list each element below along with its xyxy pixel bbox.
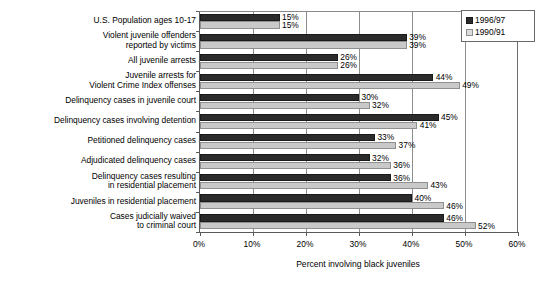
x-axis-tick-label: 30% bbox=[338, 239, 378, 249]
chart-legend: 1996/97 1990/91 bbox=[461, 10, 535, 42]
bar bbox=[200, 102, 370, 109]
x-axis-tick bbox=[465, 232, 466, 236]
category-label: Adjudicated delinquency cases bbox=[0, 156, 196, 166]
bar-value-label: 45% bbox=[441, 113, 458, 121]
x-axis-tick bbox=[412, 232, 413, 236]
gridline bbox=[465, 11, 466, 232]
bar bbox=[200, 94, 359, 101]
legend-item: 1996/97 bbox=[466, 14, 530, 26]
bar-value-label: 46% bbox=[446, 202, 463, 210]
legend-label: 1996/97 bbox=[475, 16, 505, 25]
category-axis-labels: U.S. Population ages 10-17Violent juveni… bbox=[0, 11, 196, 232]
x-axis-tick-label: 50% bbox=[444, 239, 484, 249]
bar-value-label: 40% bbox=[415, 194, 432, 202]
bar bbox=[200, 162, 391, 169]
bar bbox=[200, 154, 370, 161]
category-label: Delinquency cases in juvenile court bbox=[0, 96, 196, 106]
category-label: Violent juvenile offenders reported by v… bbox=[0, 31, 196, 50]
category-label: Delinquency cases resulting in residenti… bbox=[0, 172, 196, 191]
bar bbox=[200, 174, 391, 181]
legend-item: 1990/91 bbox=[466, 26, 530, 38]
bar-value-label: 32% bbox=[372, 101, 389, 109]
bar bbox=[200, 74, 433, 81]
bar bbox=[200, 214, 444, 221]
x-axis-tick bbox=[306, 232, 307, 236]
bar-value-label: 36% bbox=[393, 161, 410, 169]
bar-value-label: 37% bbox=[399, 141, 416, 149]
x-axis-tick-label: 40% bbox=[391, 239, 431, 249]
bar-value-label: 43% bbox=[430, 181, 447, 189]
x-axis-tick bbox=[200, 232, 201, 236]
bar-value-label: 41% bbox=[420, 121, 437, 129]
bar bbox=[200, 114, 439, 121]
category-label: Cases judicially waived to criminal cour… bbox=[0, 212, 196, 231]
x-axis-tick-label: 10% bbox=[232, 239, 272, 249]
plot-area: 15%39%26%44%30%45%33%32%36%40%46%15%39%2… bbox=[199, 11, 518, 233]
plot-right-border bbox=[517, 11, 518, 232]
bar bbox=[200, 122, 417, 129]
bar bbox=[200, 54, 338, 61]
bar-value-label: 36% bbox=[393, 174, 410, 182]
x-axis-tick bbox=[359, 232, 360, 236]
bar-chart: U.S. Population ages 10-17Violent juveni… bbox=[0, 0, 549, 287]
bar bbox=[200, 34, 407, 41]
bar bbox=[200, 14, 280, 21]
category-label: Juvenile arrests for Violent Crime Index… bbox=[0, 71, 196, 90]
category-label: Petitioned delinquency cases bbox=[0, 136, 196, 146]
y-axis-tick bbox=[196, 51, 200, 52]
bar-value-label: 49% bbox=[462, 81, 479, 89]
legend-swatch-icon bbox=[466, 29, 473, 36]
y-axis-tick bbox=[196, 212, 200, 213]
legend-swatch-icon bbox=[466, 17, 473, 24]
y-axis-tick bbox=[196, 71, 200, 72]
bar bbox=[200, 21, 280, 28]
y-axis-tick bbox=[196, 91, 200, 92]
x-axis-tick-label: 60% bbox=[497, 239, 537, 249]
category-label: Juveniles in residential placement bbox=[0, 197, 196, 207]
x-axis-tick-label: 20% bbox=[285, 239, 325, 249]
y-axis-tick bbox=[196, 152, 200, 153]
x-axis-tick bbox=[518, 232, 519, 236]
bar bbox=[200, 134, 375, 141]
bar-value-label: 52% bbox=[478, 222, 495, 230]
bar bbox=[200, 202, 444, 209]
bar-value-label: 33% bbox=[377, 133, 394, 141]
category-label: All juvenile arrests bbox=[0, 56, 196, 66]
bar-value-label: 44% bbox=[436, 73, 453, 81]
bar-value-label: 15% bbox=[282, 21, 299, 29]
y-axis-tick bbox=[196, 132, 200, 133]
bar bbox=[200, 182, 428, 189]
bar bbox=[200, 62, 338, 69]
x-axis-tick bbox=[253, 232, 254, 236]
bar bbox=[200, 222, 476, 229]
bar-value-label: 39% bbox=[409, 41, 426, 49]
bar bbox=[200, 142, 396, 149]
category-label: U.S. Population ages 10-17 bbox=[0, 16, 196, 26]
y-axis-tick bbox=[196, 31, 200, 32]
bar bbox=[200, 41, 407, 48]
y-axis-tick bbox=[196, 111, 200, 112]
bar-value-label: 32% bbox=[372, 154, 389, 162]
x-axis-tick-label: 0% bbox=[179, 239, 219, 249]
bar-value-label: 46% bbox=[446, 214, 463, 222]
y-axis-tick bbox=[196, 172, 200, 173]
bar bbox=[200, 82, 460, 89]
x-axis-title: Percent involving black juveniles bbox=[199, 259, 517, 269]
y-axis-tick bbox=[196, 192, 200, 193]
bar bbox=[200, 194, 412, 201]
legend-label: 1990/91 bbox=[475, 28, 505, 37]
bar-value-label: 26% bbox=[340, 61, 357, 69]
y-axis-tick bbox=[196, 232, 200, 233]
category-label: Delinquency cases involving detention bbox=[0, 116, 196, 126]
